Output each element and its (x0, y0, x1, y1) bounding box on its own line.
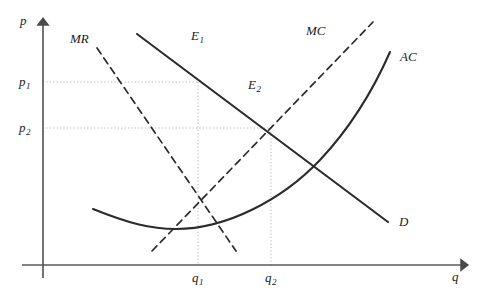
price-tick-2-base: p (19, 120, 26, 135)
marginal-cost-label: MC (306, 24, 326, 37)
quantity-tick-1-base: q (192, 270, 199, 285)
equilibrium-1-base: E (191, 28, 199, 43)
equilibrium-2-label: E2 (248, 78, 260, 91)
average-cost-curve (93, 52, 390, 229)
price-tick-1-subscript: 1 (26, 81, 31, 91)
quantity-tick-1-subscript: 1 (199, 277, 204, 287)
equilibrium-2-subscript: 2 (256, 84, 261, 94)
quantity-tick-2-subscript: 2 (272, 277, 277, 287)
average-cost-label: AC (400, 50, 417, 63)
curves (93, 22, 390, 251)
demand-label: D (399, 215, 408, 228)
price-tick-2: p2 (19, 121, 30, 134)
quantity-tick-2-base: q (265, 270, 272, 285)
price-tick-1: p1 (19, 75, 30, 88)
marginal-revenue-curve (97, 48, 236, 251)
economics-diagram: p q p1 p2 q1 q2 MR MC AC D E1 E2 (0, 0, 498, 300)
price-tick-2-subscript: 2 (26, 127, 31, 137)
equilibrium-2-base: E (248, 77, 256, 92)
axes (22, 22, 464, 278)
y-axis-label: p (20, 14, 27, 27)
marginal-revenue-label: MR (70, 32, 89, 45)
equilibrium-1-label: E1 (191, 29, 203, 42)
equilibrium-1-subscript: 1 (199, 35, 204, 45)
demand-curve (137, 34, 388, 222)
quantity-tick-1: q1 (192, 271, 203, 284)
x-axis-label: q (452, 270, 459, 283)
price-tick-1-base: p (19, 74, 26, 89)
quantity-tick-2: q2 (265, 271, 276, 284)
